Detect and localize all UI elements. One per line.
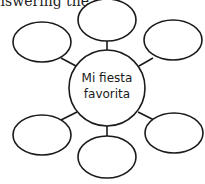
center-label-line2: favorita	[69, 86, 145, 102]
oval-bottom[interactable]	[78, 136, 136, 178]
connector-top-right	[139, 58, 153, 66]
center-label: Mi fiesta favorita	[69, 70, 145, 102]
oval-top[interactable]	[78, 0, 136, 41]
connector-bottom-left	[61, 112, 77, 120]
oval-bottom-right[interactable]	[145, 113, 203, 153]
oval-bottom-left[interactable]	[13, 115, 71, 155]
oval-top-left[interactable]	[13, 22, 71, 62]
connector-bottom-right	[138, 112, 154, 120]
oval-top-right[interactable]	[144, 20, 202, 60]
connector-top-left	[61, 58, 76, 66]
center-label-line1: Mi fiesta	[69, 70, 145, 86]
